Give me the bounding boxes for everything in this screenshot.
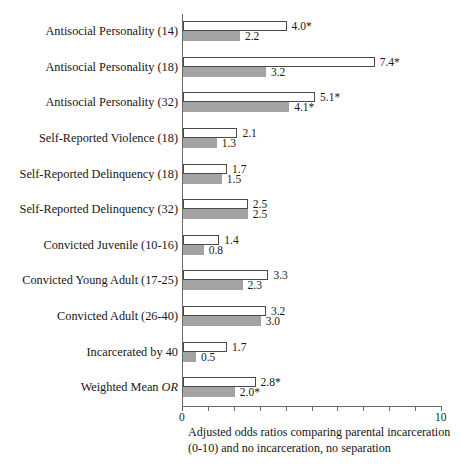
bar-filled — [183, 102, 289, 112]
bar-group: Antisocial Personality (14)4.0*2.2 — [0, 18, 461, 52]
category-label: Convicted Adult (26-40) — [0, 309, 178, 324]
bar-open — [183, 199, 248, 209]
bar-filled — [183, 280, 243, 290]
bar-value-label: 4.1* — [294, 100, 314, 114]
category-label: Self-Reported Delinquency (32) — [0, 202, 178, 217]
bar-group: Antisocial Personality (18)7.4*3.2 — [0, 54, 461, 88]
bar-group: Self-Reported Violence (18)2.11.3 — [0, 125, 461, 159]
odds-ratio-bar-chart: 010 Antisocial Personality (14)4.0*2.2An… — [0, 0, 461, 465]
caption-line-1: Adjusted odds ratios comparing parental … — [188, 425, 450, 441]
bar-group: Convicted Adult (26-40)3.23.0 — [0, 303, 461, 337]
category-label: Weighted Mean OR — [0, 380, 178, 395]
bar-filled — [183, 138, 217, 148]
bar-filled — [183, 387, 235, 397]
bar-group: Convicted Juvenile (10-16)1.40.8 — [0, 232, 461, 266]
bar-filled — [183, 245, 204, 255]
bar-open — [183, 21, 287, 31]
bar-value-label: 7.4* — [380, 55, 400, 69]
category-label: Self-Reported Delinquency (18) — [0, 167, 178, 182]
category-label: Self-Reported Violence (18) — [0, 131, 178, 146]
category-label: Convicted Young Adult (17-25) — [0, 273, 178, 288]
category-label: Incarcerated by 40 — [0, 345, 178, 360]
bar-value-label: 3.2 — [271, 65, 285, 79]
bar-filled — [183, 31, 240, 41]
bar-filled — [183, 352, 196, 362]
category-label: Antisocial Personality (14) — [0, 24, 178, 39]
bar-value-label: 3.3 — [273, 268, 287, 282]
bar-value-label: 2.3 — [248, 278, 262, 292]
bar-value-label: 0.5 — [201, 350, 215, 364]
bar-group: Weighted Mean OR2.8*2.0* — [0, 374, 461, 408]
bar-value-label: 1.5 — [227, 172, 241, 186]
bar-open — [183, 306, 266, 316]
x-axis-tick-label: 10 — [435, 411, 447, 424]
bar-filled — [183, 67, 266, 77]
category-label: Antisocial Personality (18) — [0, 60, 178, 75]
bar-filled — [183, 316, 261, 326]
category-label: Convicted Juvenile (10-16) — [0, 238, 178, 253]
category-label-italic: OR — [162, 380, 178, 394]
bar-value-label: 2.8* — [261, 375, 281, 389]
bar-group: Incarcerated by 401.70.5 — [0, 339, 461, 373]
caption-line-2: (0-10) and no incarceration, no separati… — [188, 441, 450, 457]
bar-value-label: 4.0* — [292, 19, 312, 33]
bar-value-label: 1.7 — [232, 340, 246, 354]
x-axis-caption: Adjusted odds ratios comparing parental … — [188, 425, 450, 456]
bar-filled — [183, 174, 222, 184]
bar-value-label: 5.1* — [320, 90, 340, 104]
bar-value-label: 1.4 — [224, 233, 238, 247]
bar-group: Self-Reported Delinquency (32)2.52.5 — [0, 196, 461, 230]
bar-value-label: 2.2 — [245, 29, 259, 43]
bar-group: Convicted Young Adult (17-25)3.32.3 — [0, 267, 461, 301]
bar-group: Self-Reported Delinquency (18)1.71.5 — [0, 161, 461, 195]
category-label: Antisocial Personality (32) — [0, 95, 178, 110]
bar-open — [183, 164, 227, 174]
bar-filled — [183, 209, 248, 219]
bar-group: Antisocial Personality (32)5.1*4.1* — [0, 89, 461, 123]
bar-value-label: 0.8 — [209, 243, 223, 257]
x-axis-tick-label: 0 — [179, 411, 185, 424]
bar-value-label: 2.0* — [240, 385, 260, 399]
bar-value-label: 1.3 — [222, 136, 236, 150]
bar-value-label: 2.5 — [253, 207, 267, 221]
bar-value-label: 3.0 — [266, 314, 280, 328]
bar-value-label: 2.1 — [242, 126, 256, 140]
